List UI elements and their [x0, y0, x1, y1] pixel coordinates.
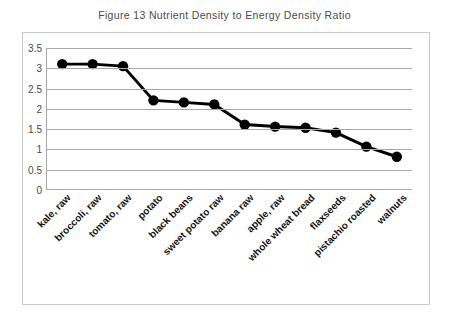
y-axis-tick-label: 3.5	[2, 43, 42, 54]
gridline	[47, 68, 412, 69]
data-point-marker	[148, 95, 158, 105]
gridline	[47, 129, 412, 130]
y-axis-tick-label: 1.5	[2, 124, 42, 135]
chart-figure: Figure 13 Nutrient Density to Energy Den…	[0, 0, 449, 325]
series-polyline	[62, 64, 397, 157]
y-axis-tick-label: 2.5	[2, 83, 42, 94]
x-axis-labels: kale, rawbroccoli, rawtomato, rawpotatob…	[46, 192, 412, 302]
chart-title: Figure 13 Nutrient Density to Energy Den…	[0, 9, 449, 21]
data-point-marker	[179, 97, 189, 107]
data-point-marker	[300, 123, 310, 133]
y-axis-tick-label: 1	[2, 144, 42, 155]
y-axis-tick-label: 0	[2, 185, 42, 196]
y-axis-tick-label: 3	[2, 63, 42, 74]
y-axis-tick-label: 0.5	[2, 164, 42, 175]
y-axis-labels: 3.532.521.510.50	[0, 48, 42, 190]
gridline	[47, 48, 412, 49]
gridline	[47, 89, 412, 90]
data-point-marker	[118, 61, 128, 71]
gridline	[47, 109, 412, 110]
data-point-marker	[270, 121, 280, 131]
y-axis-tick-label: 2	[2, 103, 42, 114]
